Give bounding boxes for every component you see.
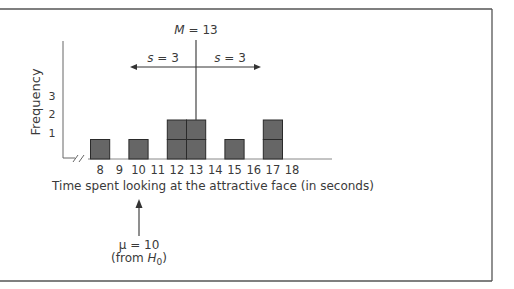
x-axis-label: Time spent looking at the attractive fac…	[51, 179, 374, 193]
histogram-bar	[263, 120, 282, 140]
mean-label: M = 13	[174, 23, 217, 37]
x-tick-label: 17	[266, 163, 281, 177]
histogram-bar	[129, 140, 148, 160]
x-tick-label: 8	[96, 163, 103, 177]
y-tick-labels: 3 2 1	[49, 90, 56, 140]
y-axis-label: Frequency	[28, 68, 43, 135]
histogram-bar	[225, 140, 244, 160]
x-tick-label: 15	[227, 163, 242, 177]
x-tick-label: 12	[170, 163, 185, 177]
histogram-bar	[167, 120, 186, 140]
histogram-bar	[167, 140, 186, 160]
histogram-bars	[91, 120, 283, 159]
y-tick-label: 2	[49, 108, 56, 121]
histogram-bar	[263, 140, 282, 160]
figure-frame	[0, 9, 492, 281]
x-tick-label: 10	[131, 163, 146, 177]
mu-source-label: (from H0)	[111, 251, 167, 267]
histogram-bar	[187, 120, 206, 140]
mu-label: μ = 10	[119, 238, 160, 252]
y-tick-label: 3	[49, 90, 56, 103]
x-tick-label: 16	[246, 163, 261, 177]
histogram-figure: Frequency 3 2 1 89101112131415161718 Tim…	[0, 0, 514, 289]
sd-left-label: s = 3	[147, 51, 179, 65]
x-tick-label: 9	[116, 163, 123, 177]
x-tick-label: 11	[150, 163, 165, 177]
x-tick-labels: 89101112131415161718	[96, 163, 299, 177]
x-tick-label: 18	[285, 163, 300, 177]
x-tick-label: 13	[189, 163, 204, 177]
y-tick-label: 1	[49, 127, 56, 140]
axis-break-icon	[63, 155, 84, 162]
mu-arrow-icon	[136, 199, 143, 236]
sd-right-label: s = 3	[214, 51, 246, 65]
histogram-bar	[91, 140, 110, 160]
histogram-bar	[187, 140, 206, 160]
x-tick-label: 14	[208, 163, 223, 177]
